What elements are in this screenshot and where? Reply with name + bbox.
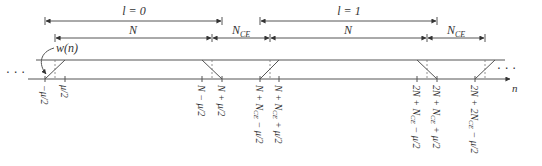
window-function-label: w(n) [41,41,78,74]
symbol-label-l1: l = 1 [337,4,360,18]
segment-label-nce-0: NCE [231,23,250,39]
symbol-span-l0: l = 0 [45,4,222,25]
tick-label-neg-mu-half: −μ/2 [39,85,50,105]
tick-label-2n-nce-minus: 2N + NCE − μ/2 [409,85,422,149]
tick-labels: −μ/2 μ/2 N − μ/2 N + μ/2 N + NCE − μ/2 N… [39,84,480,154]
tick-label-n-plus: N + μ/2 [216,84,227,116]
segment-label-n-0: N [128,23,138,37]
axis-label-n: n [512,82,518,94]
tick-label-2n-2nce-minus: 2N + 2NCE − μ/2 [467,85,480,154]
ellipsis-right: · · · [497,62,516,76]
svg-text:w(n): w(n) [56,41,78,55]
ofdm-window-diagram: l = 0 l = 1 N NCE N NCE n · · · · · · [0,0,542,166]
tick-label-mu-half: μ/2 [59,84,70,98]
symbol-label-l0: l = 0 [122,4,145,18]
segment-label-n-1: N [343,23,353,37]
window-ramps [45,60,495,79]
segment-row: N NCE N NCE [55,23,485,42]
symbol-span-l1: l = 1 [260,4,437,25]
tick-label-n-nce-plus: N + NCE + μ/2 [271,84,284,144]
tick-label-n-nce-minus: N + NCE − μ/2 [252,84,265,144]
tick-label-2n-nce-plus: 2N + NCE + μ/2 [429,85,442,149]
ellipsis-left: · · · [6,66,25,80]
segment-label-nce-1: NCE [446,23,465,39]
tick-label-n-minus: N − μ/2 [196,84,207,116]
